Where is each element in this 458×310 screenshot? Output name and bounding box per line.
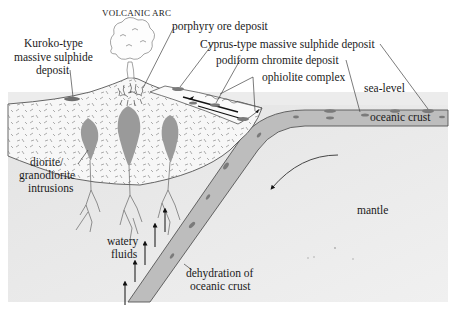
cyprus-deposit-marker [172, 87, 184, 91]
label-podiform: podiform chromite deposit [216, 54, 339, 67]
podiform-chromite-deposit [237, 117, 249, 121]
label-kuroko-3: deposit [36, 64, 70, 77]
label-porphyry: porphyry ore deposit [172, 20, 269, 33]
label-volcanic-arc: VOLCANIC ARC [102, 8, 171, 18]
subduction-diagram: VOLCANIC ARC porphyry ore deposit Kuroko… [0, 0, 458, 310]
label-dehydration-1: dehydration of [186, 267, 254, 280]
label-ophiolite: ophiolite complex [262, 71, 346, 84]
label-mantle: mantle [357, 204, 388, 216]
label-diorite-1: diorite/ [30, 156, 64, 168]
label-kuroko-2: massive sulphide [14, 51, 93, 64]
label-diorite-2: granodiorite [19, 169, 75, 182]
label-oceanic-crust: oceanic crust [370, 111, 431, 123]
label-diorite-3: intrusions [28, 182, 74, 194]
volcanic-plume [110, 17, 154, 78]
label-sea-level: sea-level [364, 82, 405, 94]
label-cyprus: Cyprus-type massive sulphide deposit [200, 38, 376, 51]
label-watery-2: fluids [111, 248, 138, 260]
label-dehydration-2: oceanic crust [190, 280, 251, 292]
label-watery-1: watery [107, 235, 139, 248]
label-kuroko-1: Kuroko-type [24, 37, 83, 50]
kuroko-deposit [64, 97, 80, 101]
